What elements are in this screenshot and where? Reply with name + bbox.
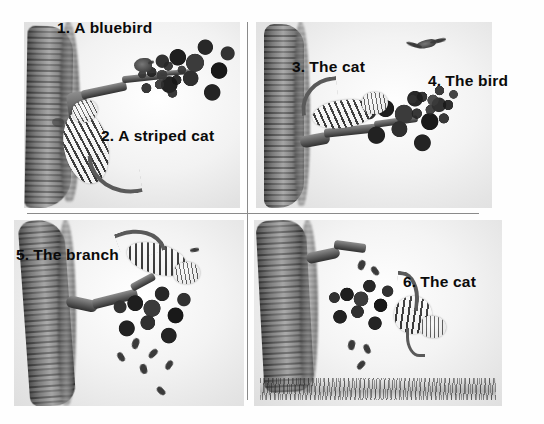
label-6-text: The cat	[420, 273, 476, 290]
scene-illustration-1	[24, 22, 240, 208]
illustration-sequence-page: 1.A bluebird 2.A striped cat	[0, 0, 544, 424]
label-3-the-cat: 3.The cat	[292, 59, 365, 75]
label-2-number: 2.	[101, 127, 114, 144]
panel-top-left[interactable]	[24, 22, 240, 208]
vertical-divider	[247, 22, 248, 400]
label-4-the-bird: 4.The bird	[428, 73, 508, 89]
label-5-text: The branch	[33, 246, 119, 263]
label-1-text: A bluebird	[74, 19, 152, 36]
label-2-text: A striped cat	[118, 127, 214, 144]
label-2-striped-cat: 2.A striped cat	[101, 128, 214, 144]
scene-illustration-4	[254, 220, 502, 406]
label-5-the-branch: 5.The branch	[16, 247, 119, 263]
label-5-number: 5.	[16, 246, 29, 263]
label-3-number: 3.	[292, 58, 305, 75]
panel-top-right[interactable]	[256, 22, 492, 208]
label-1-number: 1.	[57, 19, 70, 36]
label-6-the-cat: 6.The cat	[403, 274, 476, 290]
label-3-text: The cat	[309, 58, 365, 75]
horizontal-divider	[27, 213, 479, 214]
label-1-bluebird: 1.A bluebird	[57, 20, 152, 36]
label-4-text: The bird	[445, 72, 508, 89]
label-6-number: 6.	[403, 273, 416, 290]
label-4-number: 4.	[428, 72, 441, 89]
bird-figure	[134, 58, 152, 72]
panel-bottom-right[interactable]	[254, 220, 502, 406]
scene-illustration-2	[256, 22, 492, 208]
